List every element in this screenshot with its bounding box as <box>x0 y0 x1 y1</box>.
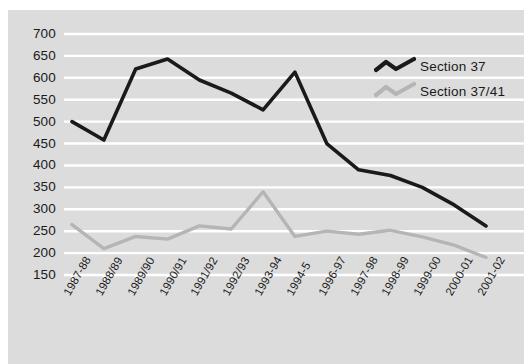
y-tick-label-650: 650 <box>16 49 56 63</box>
legend-label-0: Section 37 <box>420 59 486 74</box>
y-tick-label-350: 350 <box>16 180 56 194</box>
legend-item-0: Section 37 <box>374 56 524 81</box>
legend-label-1: Section 37/41 <box>420 84 505 99</box>
legend-item-1: Section 37/41 <box>374 81 524 106</box>
chart-legend: Section 37 Section 37/41 <box>374 56 524 106</box>
plot-area-background <box>8 10 524 281</box>
y-tick-label-550: 550 <box>16 93 56 107</box>
legend-line-sample-section-37-41 <box>374 81 416 101</box>
y-tick-label-450: 450 <box>16 137 56 151</box>
y-tick-label-300: 300 <box>16 202 56 216</box>
y-tick-label-500: 500 <box>16 115 56 129</box>
y-tick-label-700: 700 <box>16 27 56 41</box>
chart-container: 700650600550500450400350300250200150 198… <box>0 0 532 364</box>
y-tick-label-400: 400 <box>16 158 56 172</box>
legend-swatch-path-0 <box>376 59 414 70</box>
y-tick-label-200: 200 <box>16 246 56 260</box>
y-tick-label-600: 600 <box>16 71 56 85</box>
legend-swatch-path-1 <box>376 84 414 95</box>
legend-line-sample-section-37 <box>374 56 416 76</box>
y-tick-label-250: 250 <box>16 224 56 238</box>
y-tick-label-150: 150 <box>16 268 56 282</box>
